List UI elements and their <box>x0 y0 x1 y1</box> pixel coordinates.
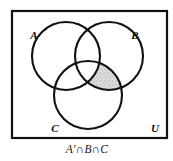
set-label-c: C <box>51 122 59 134</box>
universe-label: U <box>151 122 160 134</box>
venn-diagram-canvas: A B C U A'∩B∩C <box>0 0 173 161</box>
figure-caption: A'∩B∩C <box>65 143 109 155</box>
set-label-b: B <box>130 29 138 41</box>
venn-diagram-figure: A B C U A'∩B∩C <box>0 0 173 161</box>
set-label-a: A <box>29 29 37 41</box>
